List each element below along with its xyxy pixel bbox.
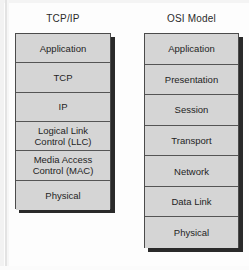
layer-label: Data Link [171, 196, 211, 207]
osi-protocol-stack: Application Presentation Session Transpo… [144, 33, 239, 248]
layer-label: Transport [171, 135, 211, 146]
osi-layer-session: Session [145, 95, 238, 126]
layer-label-line-1: Logical Link [34, 125, 91, 136]
osi-layer-application: Application [145, 34, 238, 65]
tcpip-layer-tcp: TCP [16, 63, 110, 92]
layer-label: Network [174, 166, 209, 177]
scan-artifact-bottom [0, 266, 249, 270]
layer-label: Physical [45, 190, 80, 201]
osi-layer-transport: Transport [145, 126, 238, 157]
layer-label-line-2: Control (MAC) [33, 165, 94, 176]
osi-stack-title: OSI Model [144, 13, 239, 24]
layer-label: TCP [54, 72, 73, 83]
scan-artifact-top [0, 0, 249, 3]
tcpip-protocol-stack: Application TCP IP Logical Link Control … [15, 33, 111, 209]
osi-layer-presentation: Presentation [145, 65, 238, 96]
osi-layer-data-link: Data Link [145, 187, 238, 218]
layer-label: Application [40, 43, 86, 54]
scan-artifact-left-band-2 [5, 0, 7, 270]
layer-label: Session [175, 104, 209, 115]
scan-artifact-left-band-3 [7, 0, 9, 270]
layer-label-line-2: Control (LLC) [34, 136, 91, 147]
scan-artifact-left-band-1 [0, 0, 4, 270]
tcpip-layer-physical: Physical [16, 181, 110, 210]
osi-layer-network: Network [145, 156, 238, 187]
tcpip-layer-application: Application [16, 34, 110, 63]
layer-label-line-1: Media Access [33, 154, 94, 165]
osi-layer-physical: Physical [145, 217, 238, 248]
tcpip-layer-media-access-control: Media Access Control (MAC) [16, 151, 110, 180]
layer-label: Presentation [165, 74, 218, 85]
layer-label: Physical [174, 227, 209, 238]
tcpip-layer-ip: IP [16, 93, 110, 122]
tcpip-layer-logical-link-control: Logical Link Control (LLC) [16, 122, 110, 151]
layer-label: Application [168, 43, 214, 54]
tcpip-stack-title: TCP/IP [15, 13, 111, 24]
layer-label: IP [59, 101, 68, 112]
